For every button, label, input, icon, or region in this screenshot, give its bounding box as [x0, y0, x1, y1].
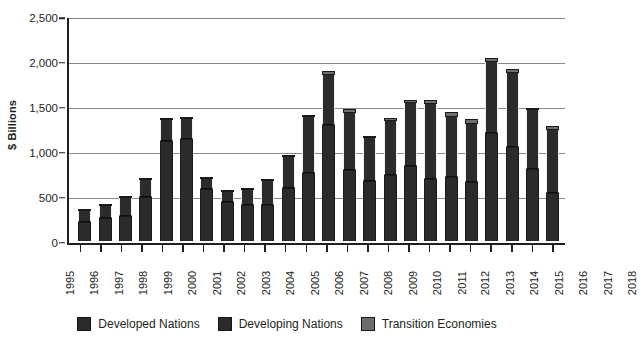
y-axis-tick-label: 2,500 [29, 12, 58, 24]
bar-segment-developed-nations [261, 205, 274, 241]
x-axis-tick-mark [408, 245, 410, 252]
stacked-bar[interactable] [384, 118, 397, 241]
y-axis-tick-label: 2,000 [29, 57, 58, 69]
bar-column[interactable] [380, 18, 400, 241]
x-axis-tick-mark [552, 245, 554, 252]
y-axis-tick-mark [59, 17, 65, 19]
stacked-bar[interactable] [445, 112, 458, 240]
stacked-bar[interactable] [200, 177, 213, 240]
stacked-bar[interactable] [363, 136, 376, 240]
bar-column[interactable] [461, 18, 481, 241]
bar-column[interactable] [522, 18, 542, 241]
stacked-bar[interactable] [78, 209, 91, 241]
x-axis-tick-mark [490, 245, 492, 252]
bar-series-group [72, 18, 566, 241]
stacked-bar[interactable] [506, 69, 519, 240]
stacked-bar[interactable] [139, 178, 152, 240]
stacked-bar[interactable] [261, 179, 274, 241]
bar-column[interactable] [95, 18, 115, 241]
stacked-bar[interactable] [404, 100, 417, 241]
bar-segment-developed-nations [506, 147, 519, 240]
stacked-bar[interactable] [221, 190, 234, 241]
stacked-bar[interactable] [180, 117, 193, 240]
bar-segment-developed-nations [465, 182, 478, 240]
bar-column[interactable] [156, 18, 176, 241]
x-axis-tick-mark [182, 245, 184, 252]
bar-column[interactable] [197, 18, 217, 241]
bar-column[interactable] [237, 18, 257, 241]
x-axis-tick [440, 245, 461, 253]
bar-column[interactable] [75, 18, 95, 241]
x-axis-tick [234, 245, 255, 253]
legend-label: Developing Nations [239, 317, 343, 331]
bar-segment-developed-nations [322, 125, 335, 240]
x-axis-tick [460, 245, 481, 253]
bar-column[interactable] [482, 18, 502, 241]
stacked-bar[interactable] [485, 58, 498, 240]
x-axis-tick [317, 245, 338, 253]
stacked-bar[interactable] [526, 108, 539, 241]
bar-segment-developed-nations [404, 166, 417, 240]
bar-column[interactable] [136, 18, 156, 241]
stacked-bar[interactable] [424, 100, 437, 241]
bar-column[interactable] [278, 18, 298, 241]
bar-column[interactable] [441, 18, 461, 241]
stacked-bar[interactable] [99, 204, 112, 241]
stacked-bar[interactable] [322, 71, 335, 241]
y-axis-tick-mark [59, 152, 65, 154]
bar-segment-developed-nations [526, 169, 539, 241]
bar-column[interactable] [217, 18, 237, 241]
bar-column[interactable] [319, 18, 339, 241]
bar-segment-developing-nations [302, 117, 315, 173]
bar-column[interactable] [258, 18, 278, 241]
bar-segment-developing-nations [322, 75, 335, 125]
x-axis-tick-mark [244, 245, 246, 252]
bar-column[interactable] [339, 18, 359, 241]
stacked-bar[interactable] [546, 126, 559, 240]
x-axis-tick [193, 245, 214, 253]
x-axis-tick [419, 245, 440, 253]
bar-segment-developed-nations [139, 197, 152, 240]
bar-segment-developing-nations [343, 113, 356, 169]
legend-label: Transition Economies [382, 317, 497, 331]
bar-column[interactable] [360, 18, 380, 241]
bar-segment-developing-nations [282, 157, 295, 189]
legend-item[interactable]: Developed Nations [77, 317, 199, 331]
y-axis-tick-label: 1,000 [29, 147, 58, 159]
x-axis-tick [296, 245, 317, 253]
x-axis-tick-mark [388, 245, 390, 252]
stacked-bar[interactable] [465, 119, 478, 240]
stacked-bar[interactable] [282, 155, 295, 241]
legend-item[interactable]: Transition Economies [361, 317, 497, 331]
bar-column[interactable] [502, 18, 522, 241]
stacked-bar[interactable] [119, 196, 132, 241]
y-axis-tick-mark [59, 107, 65, 109]
y-axis-ticks: 2,5002,0001,5001,0005000 [0, 0, 67, 265]
x-axis-tick-mark [449, 245, 451, 252]
bar-column[interactable] [115, 18, 135, 241]
legend-label: Developed Nations [98, 317, 199, 331]
y-axis-tick-mark [59, 242, 65, 244]
stacked-bar[interactable] [241, 188, 254, 240]
y-axis-tick-mark [59, 197, 65, 199]
stacked-bar[interactable] [160, 118, 173, 241]
plot-area [67, 18, 565, 245]
bar-column[interactable] [543, 18, 563, 241]
x-axis-label-text: 2018 [627, 271, 641, 295]
bar-segment-developed-nations [119, 216, 132, 240]
bar-segment-developing-nations [424, 104, 437, 179]
legend-item[interactable]: Developing Nations [218, 317, 343, 331]
bar-column[interactable] [298, 18, 318, 241]
bar-segment-developing-nations [445, 117, 458, 177]
bar-segment-developing-nations [241, 190, 254, 205]
y-axis-tick-label: 500 [39, 192, 58, 204]
bar-column[interactable] [421, 18, 441, 241]
stacked-bar[interactable] [302, 115, 315, 240]
bar-column[interactable] [400, 18, 420, 241]
x-axis-tick [132, 245, 153, 253]
bar-segment-developed-nations [78, 222, 91, 240]
stacked-bar[interactable] [343, 109, 356, 241]
x-axis-tick [214, 245, 235, 253]
bar-column[interactable] [176, 18, 196, 241]
